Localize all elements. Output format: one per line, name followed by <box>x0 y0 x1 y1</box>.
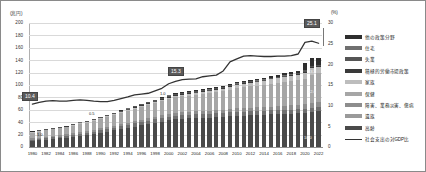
y-tick-label: 0 <box>3 144 23 149</box>
legend-item[interactable]: 保健 <box>345 88 425 99</box>
inline-data-label: 13.2 <box>308 69 316 74</box>
legend-swatch <box>345 35 362 39</box>
y-tick-label: 40 <box>3 120 23 125</box>
x-tick-label: 1988 <box>82 151 92 156</box>
callout-leader-line <box>323 28 324 46</box>
y-tick-label: 200 <box>3 20 23 25</box>
legend-swatch <box>345 69 362 73</box>
value-callout: 15.3 <box>168 67 184 76</box>
plot-area <box>29 23 322 147</box>
x-axis-line <box>29 147 323 148</box>
y-tick-label: 140 <box>3 58 23 63</box>
legend-swatch <box>345 46 362 50</box>
chart-figure: (兆円) (%) 200180160140120100806040200 302… <box>0 0 426 172</box>
x-tick-label: 2020 <box>300 151 310 156</box>
y-tick-label: 60 <box>3 107 23 112</box>
legend-swatch <box>345 92 362 96</box>
legend-swatch <box>345 57 362 61</box>
left-axis-unit: (兆円) <box>10 10 22 16</box>
y2-tick-label: 10 <box>328 103 342 108</box>
x-tick-label: 2012 <box>246 151 256 156</box>
y2-tick-label: 25 <box>328 41 342 46</box>
x-tick-label: 1992 <box>109 151 119 156</box>
y-tick-label: 20 <box>3 132 23 137</box>
legend-item[interactable]: 積極的労働市場政策 <box>345 65 425 76</box>
x-tick-label: 1990 <box>96 151 106 156</box>
legend-label: 家族 <box>365 79 375 85</box>
x-tick-label: 2006 <box>205 151 215 156</box>
legend-label: 障害、業務災害、傷病 <box>365 102 414 108</box>
legend-item[interactable]: 遺族 <box>345 111 425 122</box>
legend-line-marker <box>345 139 362 140</box>
inline-data-label: 1.0 <box>160 91 166 96</box>
legend-item[interactable]: 他の政策分野 <box>345 31 425 42</box>
legend-label: 社会支出の対GDP比 <box>365 136 409 142</box>
legend-swatch <box>345 114 362 118</box>
legend-label: 保健 <box>365 91 375 97</box>
y-tick-label: 160 <box>3 45 23 50</box>
gdp-ratio-line <box>29 23 322 147</box>
x-axis-labels: 1980198219841986198819901992199419961998… <box>29 151 322 165</box>
legend-swatch <box>345 126 362 130</box>
inline-data-label: 1.0 <box>37 132 43 137</box>
legend-label: 失業 <box>365 56 375 62</box>
y2-tick-label: 15 <box>328 82 342 87</box>
legend-item[interactable]: 社会支出の対GDP比 <box>345 134 425 145</box>
value-callout: 10.4 <box>22 92 38 101</box>
legend-swatch <box>345 80 362 84</box>
value-callout: 25.1 <box>304 19 320 28</box>
x-tick-label: 1982 <box>41 151 51 156</box>
y-tick-label: 180 <box>3 33 23 38</box>
x-tick-label: 2002 <box>178 151 188 156</box>
y-tick-label: 100 <box>3 82 23 87</box>
inline-data-label: 0.5 <box>89 111 95 116</box>
legend-item[interactable]: 障害、業務災害、傷病 <box>345 99 425 110</box>
legend-label: 高齢 <box>365 125 375 131</box>
inline-data-label: 12.0 <box>308 89 316 94</box>
legend-item[interactable]: 住宅 <box>345 42 425 53</box>
x-tick-label: 2010 <box>232 151 242 156</box>
x-tick-label: 2008 <box>218 151 228 156</box>
x-tick-label: 2018 <box>287 151 297 156</box>
x-tick-label: 1984 <box>55 151 65 156</box>
right-axis-unit: (%) <box>331 10 338 15</box>
legend-swatch <box>345 103 362 107</box>
x-tick-label: 2016 <box>273 151 283 156</box>
legend-item[interactable]: 失業 <box>345 54 425 65</box>
y-tick-label: 80 <box>3 95 23 100</box>
legend-item[interactable]: 高齢 <box>345 122 425 133</box>
y2-tick-label: 0 <box>328 144 342 149</box>
legend-label: 遺族 <box>365 113 375 119</box>
x-tick-label: 1986 <box>69 151 79 156</box>
legend-label: 住宅 <box>365 45 375 51</box>
x-tick-label: 2004 <box>191 151 201 156</box>
x-tick-label: 2022 <box>314 151 324 156</box>
x-tick-label: 1994 <box>123 151 133 156</box>
legend-item[interactable]: 家族 <box>345 77 425 88</box>
legend-label: 積極的労働市場政策 <box>365 68 409 74</box>
y2-tick-label: 20 <box>328 62 342 67</box>
legend: 他の政策分野住宅失業積極的労働市場政策家族保健障害、業務災害、傷病遺族高齢社会支… <box>345 31 425 145</box>
x-tick-label: 1980 <box>28 151 38 156</box>
x-tick-label: 2014 <box>259 151 269 156</box>
y2-tick-label: 30 <box>328 20 342 25</box>
y-tick-label: 120 <box>3 70 23 75</box>
legend-label: 他の政策分野 <box>365 34 394 40</box>
x-tick-label: 1998 <box>150 151 160 156</box>
x-tick-label: 1996 <box>137 151 147 156</box>
x-tick-label: 2000 <box>164 151 174 156</box>
y2-tick-label: 5 <box>328 124 342 129</box>
inline-data-label: 10.0 <box>304 135 312 140</box>
